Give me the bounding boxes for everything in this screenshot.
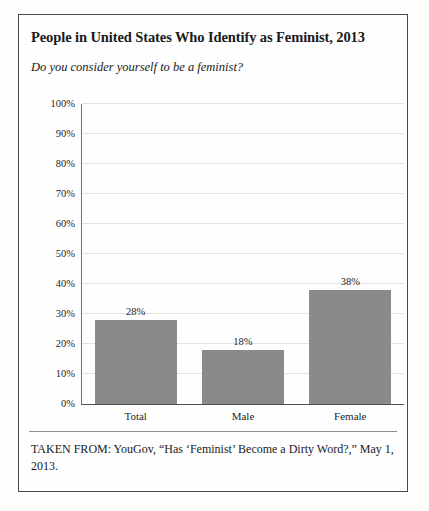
figure-title: People in United States Who Identify as … (31, 29, 365, 46)
y-axis-tick-label: 90% (56, 128, 75, 139)
y-axis-tick-label: 70% (56, 188, 75, 199)
figure-container: People in United States Who Identify as … (18, 14, 408, 492)
y-axis-tick-label: 100% (51, 98, 76, 109)
y-axis-tick-label: 50% (56, 248, 75, 259)
bars-group: 28%Total18%Male38%Female (82, 104, 404, 404)
caption-divider (29, 431, 397, 432)
plot-area: 100%90%80%70%60%50%40%30%20%10%0% 28%Tot… (81, 104, 404, 405)
bar[interactable]: 28% (95, 320, 177, 404)
bar-slot: 28%Total (82, 104, 189, 404)
y-axis-tick-label: 20% (56, 338, 75, 349)
figure-subtitle: Do you consider yourself to be a feminis… (31, 60, 243, 75)
y-axis-tick-label: 40% (56, 278, 75, 289)
y-axis-tick-label: 10% (56, 368, 75, 379)
y-axis-tick-label: 60% (56, 218, 75, 229)
figure-caption: TAKEN FROM: YouGov, “Has ‘Feminist’ Beco… (31, 441, 395, 474)
bar[interactable]: 38% (309, 290, 391, 404)
bar-slot: 18%Male (189, 104, 296, 404)
bar-value-label: 18% (233, 336, 252, 347)
y-axis-tick-label: 0% (61, 398, 75, 409)
x-axis-tick-label: Male (232, 410, 255, 422)
y-axis-tick-label: 80% (56, 158, 75, 169)
x-axis-tick-label: Female (334, 410, 366, 422)
y-axis-tick-label: 30% (56, 308, 75, 319)
bar-value-label: 28% (126, 306, 145, 317)
x-axis-tick-label: Total (124, 410, 146, 422)
bar-value-label: 38% (341, 276, 360, 287)
bar-slot: 38%Female (297, 104, 404, 404)
bar-chart: 100%90%80%70%60%50%40%30%20%10%0% 28%Tot… (29, 90, 397, 428)
bar[interactable]: 18% (202, 350, 284, 404)
